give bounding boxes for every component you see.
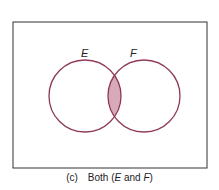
caption-prefix: (c) <box>66 172 78 183</box>
caption-mid: and <box>121 172 143 183</box>
venn-diagram: E F <box>0 0 219 190</box>
label-e: E <box>81 47 89 59</box>
caption-text-after: ) <box>150 172 153 183</box>
caption-text-before: Both ( <box>88 172 115 183</box>
caption: (c)Both (E and F) <box>0 172 219 183</box>
